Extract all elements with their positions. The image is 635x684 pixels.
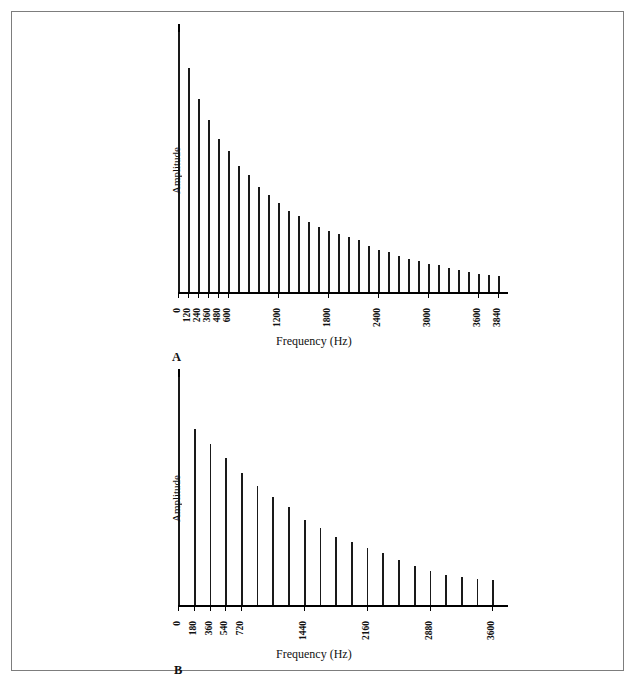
spectral-line xyxy=(288,211,290,293)
spectral-line xyxy=(288,507,290,605)
x-tick-mark xyxy=(208,292,209,298)
x-tick-label: 3000 xyxy=(423,308,433,327)
spectral-line xyxy=(478,274,480,293)
x-tick-mark xyxy=(228,292,229,298)
spectral-line xyxy=(248,175,250,292)
spectral-line xyxy=(358,240,360,292)
x-tick-label: 3600 xyxy=(487,621,497,640)
figure-frame: Amplitude 012024036048060012001800240030… xyxy=(11,11,624,671)
spectral-line xyxy=(367,548,369,605)
x-tick-label: 1440 xyxy=(299,621,309,640)
spectral-line xyxy=(428,264,430,293)
spectral-line xyxy=(328,231,330,292)
spectral-line xyxy=(438,265,440,292)
spectral-line xyxy=(448,268,450,293)
x-tick-mark xyxy=(210,605,211,611)
spectral-line xyxy=(418,261,420,292)
x-tick-mark xyxy=(492,605,493,611)
spectral-line xyxy=(258,187,260,292)
spectral-line xyxy=(468,272,470,293)
spectral-line xyxy=(477,579,479,605)
y-axis-label-a: Amplitude xyxy=(170,147,182,194)
spectral-line xyxy=(188,68,190,293)
x-tick-label: 2400 xyxy=(373,308,383,327)
x-tick-mark xyxy=(218,292,219,298)
x-tick-label: 2160 xyxy=(362,621,372,640)
spectral-line xyxy=(318,227,320,292)
x-tick-label: 600 xyxy=(223,308,233,322)
x-tick-label: 1800 xyxy=(323,308,333,327)
spectral-line xyxy=(228,151,230,293)
x-tick-mark xyxy=(367,605,368,611)
spectral-line xyxy=(398,256,400,292)
y-axis-label-b: Amplitude xyxy=(170,475,182,522)
spectral-line xyxy=(218,139,220,292)
spectral-line xyxy=(488,275,490,293)
spectral-line xyxy=(398,560,400,606)
spectral-line xyxy=(414,566,416,606)
plot-area-b xyxy=(178,369,508,607)
x-tick-label: 2880 xyxy=(425,621,435,640)
x-tick-mark xyxy=(178,605,179,611)
spectral-line xyxy=(194,429,196,606)
x-tick-mark xyxy=(498,292,499,298)
x-tick-mark xyxy=(198,292,199,298)
x-tick-label: 1200 xyxy=(273,308,283,327)
spectral-line xyxy=(268,195,270,293)
x-tick-mark xyxy=(428,292,429,298)
spectrum-panel-b: Amplitude 01803605407201440216028803600 … xyxy=(12,357,625,672)
x-tick-label: 0 xyxy=(173,621,183,626)
x-tick-label: 720 xyxy=(236,621,246,635)
spectral-line xyxy=(458,270,460,292)
x-tick-mark xyxy=(241,605,242,611)
x-tick-mark xyxy=(328,292,329,298)
spectral-line xyxy=(208,120,210,293)
spectral-line xyxy=(378,250,380,293)
spectral-line xyxy=(492,580,494,605)
x-tick-mark xyxy=(225,605,226,611)
spectral-line xyxy=(461,577,463,606)
spectral-line xyxy=(298,216,300,293)
spectral-line xyxy=(241,473,243,605)
spectral-line xyxy=(445,575,447,606)
spectral-line xyxy=(335,537,337,605)
spectral-line xyxy=(304,520,306,606)
x-tick-label: 180 xyxy=(189,621,199,635)
spectral-line xyxy=(498,276,500,292)
panel-letter-b: B xyxy=(174,663,182,678)
spectral-line xyxy=(308,222,310,292)
spectral-line xyxy=(210,444,212,606)
spectral-line xyxy=(351,542,353,606)
x-tick-label: 540 xyxy=(220,621,230,635)
x-axis-line-b xyxy=(178,605,508,607)
spectral-line xyxy=(368,246,370,293)
x-tick-mark xyxy=(478,292,479,298)
spectral-line xyxy=(272,497,274,605)
x-tick-mark xyxy=(378,292,379,298)
spectral-line xyxy=(257,486,259,606)
x-tick-mark xyxy=(194,605,195,611)
x-tick-mark xyxy=(178,292,179,298)
plot-area-a xyxy=(178,24,508,294)
x-axis-title-b: Frequency (Hz) xyxy=(276,647,352,662)
spectral-line xyxy=(225,458,227,605)
spectral-line xyxy=(278,203,280,293)
x-axis-title-a: Frequency (Hz) xyxy=(276,334,352,349)
spectral-line xyxy=(198,99,200,293)
x-tick-mark xyxy=(278,292,279,298)
spectral-line xyxy=(320,528,322,606)
spectral-line xyxy=(382,553,384,605)
spectral-line xyxy=(430,571,432,605)
x-tick-mark xyxy=(304,605,305,611)
x-tick-label: 3600 xyxy=(473,308,483,327)
spectral-line xyxy=(348,237,350,293)
x-tick-label: 3840 xyxy=(493,308,503,327)
x-tick-mark xyxy=(188,292,189,298)
x-tick-label: 360 xyxy=(205,621,215,635)
spectral-line xyxy=(338,234,340,293)
spectral-line xyxy=(408,259,410,293)
spectral-line xyxy=(388,252,390,292)
x-tick-mark xyxy=(430,605,431,611)
spectral-line xyxy=(238,166,240,292)
spectrum-panel-a: Amplitude 012024036048060012001800240030… xyxy=(12,12,625,362)
